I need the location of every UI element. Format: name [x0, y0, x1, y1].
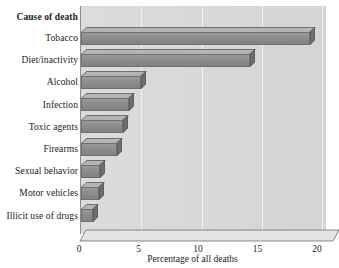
- category-label: Firearms: [0, 144, 78, 154]
- x-tick-label: 20: [312, 244, 322, 254]
- bar-front-face: [81, 187, 99, 200]
- bar-front-face: [81, 76, 141, 89]
- x-tick-label: 5: [136, 244, 141, 254]
- x-tick-label: 10: [193, 244, 203, 254]
- x-tick-label: 0: [77, 244, 82, 254]
- bar: [81, 120, 123, 133]
- category-label: Toxic agents: [0, 122, 78, 132]
- bar-front-face: [81, 165, 100, 178]
- x-axis-title: Percentage of all deaths: [0, 254, 339, 264]
- bar: [81, 54, 250, 67]
- bar: [81, 187, 99, 200]
- bar-front-face: [81, 120, 123, 133]
- bar: [81, 76, 141, 89]
- bar: [81, 165, 100, 178]
- bar: [81, 209, 93, 222]
- plot-area: [80, 6, 326, 234]
- bar-front-face: [81, 143, 117, 156]
- bar-chart: Cause of death TobaccoDiet/inactivityAlc…: [0, 0, 339, 268]
- category-label: Diet/inactivity: [0, 55, 78, 65]
- category-label: Illicit use of drugs: [0, 211, 78, 221]
- bar-front-face: [81, 209, 93, 222]
- bar-front-face: [81, 98, 129, 111]
- category-label: Motor vehicles: [0, 188, 78, 198]
- category-label: Infection: [0, 100, 78, 110]
- x-tick-label: 15: [253, 244, 263, 254]
- category-axis-header: Cause of death: [0, 12, 78, 22]
- x-axis: [62, 228, 339, 244]
- bar: [81, 32, 310, 45]
- category-label: Tobacco: [0, 33, 78, 43]
- category-label: Alcohol: [0, 77, 78, 87]
- category-label: Sexual behavior: [0, 166, 78, 176]
- gridline-20: [322, 6, 323, 234]
- bar: [81, 98, 129, 111]
- bar: [81, 143, 117, 156]
- bar-front-face: [81, 54, 250, 67]
- bar-front-face: [81, 32, 310, 45]
